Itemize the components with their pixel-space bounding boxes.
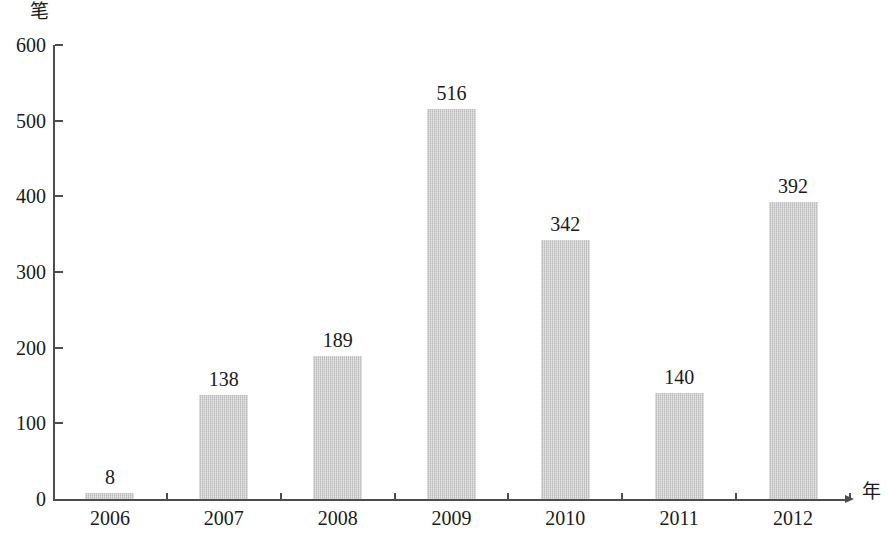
x-axis-category-label: 2009 [407, 508, 497, 528]
x-axis-tick [166, 493, 168, 500]
bar [769, 202, 818, 499]
x-axis-unit-label: 年 [862, 482, 881, 501]
x-axis-category-label: 2007 [179, 508, 269, 528]
bar [199, 395, 248, 499]
x-axis-tick [394, 493, 396, 500]
y-axis-tick [55, 195, 63, 197]
bar-value-label: 8 [70, 467, 150, 487]
y-axis-tick-label: 300 [0, 262, 46, 282]
y-axis-tick [55, 347, 63, 349]
x-axis-line [53, 499, 850, 501]
y-axis-tick [55, 120, 63, 122]
x-axis-category-label: 2012 [748, 508, 838, 528]
y-axis-line [53, 45, 55, 501]
x-axis-tick [849, 493, 851, 500]
bar-value-label: 516 [412, 83, 492, 103]
bar-value-label: 138 [184, 369, 264, 389]
x-axis-category-label: 2011 [634, 508, 724, 528]
x-axis-tick [280, 493, 282, 500]
y-axis-tick-label: 400 [0, 186, 46, 206]
x-axis-tick [735, 493, 737, 500]
x-axis-tick [621, 493, 623, 500]
y-axis-tick-label: 500 [0, 111, 46, 131]
y-axis-tick [55, 44, 63, 46]
y-axis-tick-label: 100 [0, 413, 46, 433]
bar-value-label: 140 [639, 367, 719, 387]
y-axis-tick [55, 271, 63, 273]
y-axis-tick-label: 0 [0, 489, 46, 509]
bar [427, 109, 476, 499]
x-axis-category-label: 2008 [293, 508, 383, 528]
bar [85, 493, 134, 499]
bar [655, 393, 704, 499]
bar-value-label: 392 [753, 176, 833, 196]
bar [541, 240, 590, 499]
y-axis-tick-label: 600 [0, 35, 46, 55]
x-axis-tick [507, 493, 509, 500]
x-axis-category-label: 2006 [65, 508, 155, 528]
y-axis-tick [55, 422, 63, 424]
bar-value-label: 189 [298, 330, 378, 350]
y-axis-tick-label: 200 [0, 338, 46, 358]
bar-value-label: 342 [525, 214, 605, 234]
x-axis-category-label: 2010 [520, 508, 610, 528]
bar-chart: 笔 年 0100200300400500600 8200613820071892… [0, 0, 889, 536]
bar [313, 356, 362, 499]
y-axis-unit-label: 笔 [30, 2, 49, 21]
